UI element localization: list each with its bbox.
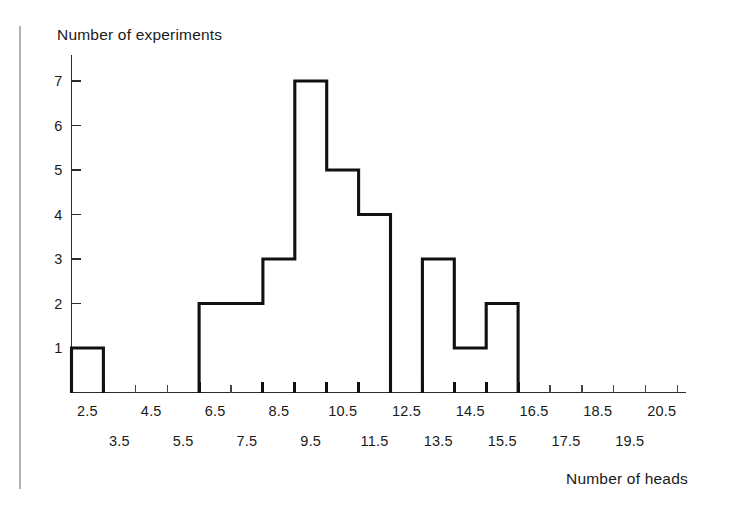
y-tick-label: 5 (54, 162, 62, 178)
y-tick-label: 4 (54, 207, 62, 223)
x-tick-label-lower: 9.5 (300, 433, 321, 449)
histogram-outline (72, 81, 519, 393)
x-tick-label-lower: 15.5 (488, 433, 517, 449)
x-tick-label-upper: 18.5 (583, 403, 612, 419)
x-tick-label-upper: 4.5 (141, 403, 162, 419)
y-tick-marks (72, 81, 81, 348)
y-tick-label: 1 (54, 340, 62, 356)
y-tick-label: 3 (54, 251, 62, 267)
x-tick-label-lower: 5.5 (173, 433, 194, 449)
y-axis-title: Number of experiments (57, 26, 222, 44)
x-tick-label-lower: 11.5 (361, 433, 389, 449)
x-tick-label-lower: 19.5 (615, 433, 644, 449)
x-tick-label-upper: 8.5 (268, 403, 289, 419)
x-tick-marks (72, 382, 678, 393)
x-tick-label-lower: 7.5 (237, 433, 258, 449)
x-tick-label-upper: 2.5 (77, 403, 98, 419)
x-tick-label-upper: 14.5 (456, 403, 485, 419)
x-tick-label-upper: 10.5 (328, 403, 357, 419)
x-tick-label-upper: 6.5 (205, 403, 226, 419)
x-tick-label-lower: 13.5 (424, 433, 453, 449)
x-tick-label-upper: 16.5 (520, 403, 549, 419)
histogram-figure: Number of experiments Number of heads 12… (0, 0, 741, 513)
x-tick-label-lower: 3.5 (109, 433, 130, 449)
x-tick-label-upper: 20.5 (647, 403, 676, 419)
y-tick-label: 7 (54, 73, 62, 89)
y-tick-label: 6 (54, 118, 62, 134)
chart-page: Number of experiments Number of heads 12… (0, 0, 741, 513)
x-axis-title: Number of heads (566, 470, 688, 488)
x-tick-label-lower: 17.5 (551, 433, 580, 449)
x-tick-label-upper: 12.5 (392, 403, 421, 419)
y-tick-label: 2 (54, 296, 62, 312)
axis-lines (72, 55, 686, 393)
